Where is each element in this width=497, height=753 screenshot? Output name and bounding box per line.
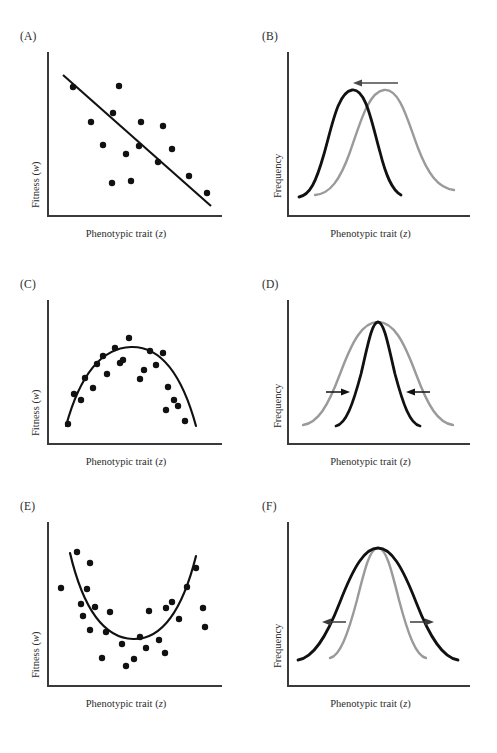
panel-c-plot [16, 278, 236, 478]
panel-f-curve-before [330, 548, 426, 658]
panel-e-plot [16, 500, 236, 722]
panel-a-plot [16, 30, 236, 252]
panel-d-x-axis-label: Phenotypic trait (z) [258, 456, 483, 467]
panel-d-arrow-right-inward [326, 389, 350, 396]
selection-types-figure: (A) Fitness (w) [0, 0, 497, 753]
panel-b-x-axis-label: Phenotypic trait (z) [258, 228, 483, 239]
panel-f: (F) Frequency Phenotypic trait (z) [258, 500, 483, 722]
panel-e-scatter-points [58, 549, 208, 669]
panel-c-fit-curve [66, 347, 196, 426]
panel-c-x-axis-label: Phenotypic trait (z) [16, 456, 236, 467]
panel-f-curve-after [298, 548, 458, 660]
panel-d-arrow-left-inward [406, 389, 430, 396]
panel-d-curve-before [303, 322, 453, 425]
panel-b-curve-after [299, 90, 401, 197]
panel-d-plot [258, 278, 483, 478]
panel-a: (A) Fitness (w) [16, 30, 236, 252]
panel-e-x-axis-label: Phenotypic trait (z) [16, 698, 236, 709]
panel-f-axis-lines [288, 522, 470, 686]
panel-a-regression-line [63, 75, 211, 206]
panel-e: (E) Fitness (w) [16, 500, 236, 722]
panel-b-plot [258, 30, 483, 252]
panel-d: (D) Frequency Phenotypic trait (z) [258, 278, 483, 478]
panel-c: (C) Fitness (w) [16, 278, 236, 478]
panel-a-x-axis-label: Phenotypic trait (z) [16, 228, 236, 239]
panel-f-x-axis-label: Phenotypic trait (z) [258, 698, 483, 709]
panel-d-curve-after [336, 322, 420, 426]
panel-f-plot [258, 500, 483, 722]
panel-b-arrow-left [353, 80, 398, 87]
panel-b-axis-lines [288, 52, 470, 216]
panel-b-curve-before [315, 90, 454, 195]
panel-b: (B) Frequency Phenotypic trait (z) [258, 30, 483, 252]
